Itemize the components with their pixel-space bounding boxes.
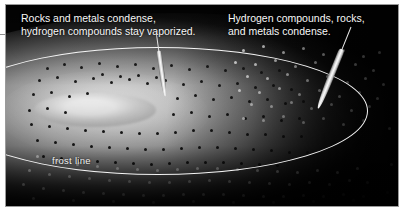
annotation-right: Hydrogen compounds, rocks, and metals co…: [228, 12, 365, 37]
annotation-left: Rocks and metals condense, hydrogen comp…: [21, 12, 196, 37]
protoplanetary-disk-figure: frost line Rocks and metals condense, hy…: [6, 5, 398, 206]
frost-line-label: frost line: [52, 155, 91, 166]
